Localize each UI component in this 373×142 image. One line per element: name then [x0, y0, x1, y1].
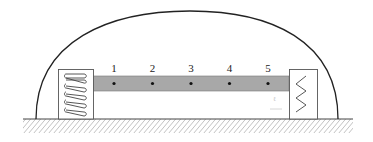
- point-dot: [189, 82, 192, 85]
- point-dot: [266, 82, 269, 85]
- point-label: 5: [265, 62, 271, 74]
- point-dot: [228, 82, 231, 85]
- point-label: 2: [150, 62, 156, 74]
- point-label: 3: [188, 62, 194, 74]
- right-support-box: [290, 70, 318, 120]
- left-support-box: [59, 70, 94, 120]
- point-dot: [151, 82, 154, 85]
- ground-hatch: [23, 119, 353, 133]
- left-support-coil-spring: [59, 70, 94, 120]
- svg-text:ℓ: ℓ: [273, 96, 276, 102]
- faint-mark: ℓ: [270, 96, 282, 109]
- ground: [23, 119, 353, 133]
- right-support-zigzag-spring: [290, 70, 318, 120]
- point-label: 1: [111, 62, 117, 74]
- point-label: 4: [227, 62, 233, 74]
- spring-beam-diagram: 1 2 3 4 5 ℓ: [0, 0, 373, 142]
- point-dot: [112, 82, 115, 85]
